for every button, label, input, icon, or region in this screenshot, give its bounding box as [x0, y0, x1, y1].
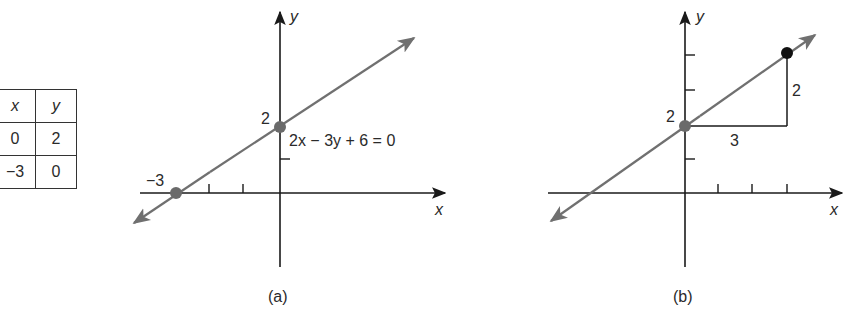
equation-label: 2x − 3y + 6 = 0 — [289, 132, 395, 149]
graph-b: y x 2 3 2 (b) — [548, 8, 842, 305]
rise-label: 2 — [792, 82, 801, 99]
point-x-intercept-a — [170, 187, 182, 199]
graph-a: y x 2 −3 2x − 3y + 6 = 0 (a) — [134, 8, 445, 305]
y-axis-label-b: y — [695, 8, 705, 25]
x-axis-label-b: x — [829, 201, 839, 218]
y-intercept-label-b: 2 — [666, 108, 675, 125]
graphs-canvas: y x 2 −3 2x − 3y + 6 = 0 (a) y x 2 3 2 (… — [0, 0, 850, 326]
point-second-b — [781, 47, 793, 59]
caption-b: (b) — [673, 288, 693, 305]
point-y-intercept-b — [679, 120, 691, 132]
graph-line-a — [210, 38, 414, 172]
run-label: 3 — [730, 132, 739, 149]
x-intercept-label-a: −3 — [146, 172, 164, 189]
y-axis-label-a: y — [289, 8, 299, 25]
point-y-intercept-a — [274, 121, 286, 133]
y-intercept-label-a: 2 — [261, 110, 270, 127]
graph-line-b-lower — [551, 116, 700, 221]
x-axis-label-a: x — [434, 201, 444, 218]
caption-a: (a) — [268, 288, 288, 305]
graph-line-b — [700, 35, 815, 116]
